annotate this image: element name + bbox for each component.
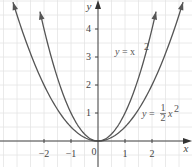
svg-text:x: x <box>167 108 173 119</box>
grid-lines <box>0 0 192 167</box>
svg-text:y = x: y = x <box>114 46 135 57</box>
svg-text:2: 2 <box>174 103 179 114</box>
x-tick-label: 1 <box>123 148 128 159</box>
y-tick-label: 4 <box>86 23 91 34</box>
x-axis-label: x <box>183 142 189 154</box>
parabola-chart: −2 −1 1 2 0 4 3 2 1 x y y = x 2 y = 1 2 … <box>0 0 192 167</box>
y-tick-label: 1 <box>86 107 91 118</box>
svg-text:y =: y = <box>141 108 155 119</box>
curve-label-half-x-squared: y = 1 2 x 2 <box>141 102 179 123</box>
y-tick-label: 2 <box>86 79 91 90</box>
svg-text:2: 2 <box>144 41 149 52</box>
svg-text:2: 2 <box>161 112 166 123</box>
x-tick-label: −2 <box>39 148 50 159</box>
origin-label: 0 <box>92 146 97 157</box>
x-tick-label: 2 <box>150 148 155 159</box>
y-tick-label: 3 <box>86 51 91 62</box>
x-tick-label: −1 <box>66 148 77 159</box>
curve-label-x-squared: y = x 2 <box>114 41 149 57</box>
y-axis-label: y <box>86 0 92 12</box>
